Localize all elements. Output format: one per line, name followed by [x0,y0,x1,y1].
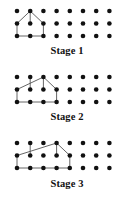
grid-dot [94,21,99,26]
grid-dot [94,34,99,39]
grid-dot [28,153,33,158]
grid-dot [81,9,86,14]
stage-3-label: Stage 3 [0,178,134,190]
stage-figure-2: Stage 2 [0,66,134,132]
grid-dot [68,9,73,14]
grid-dot [28,21,33,26]
grid-dot [81,34,86,39]
grid-dot [28,166,33,171]
grid-dot [81,21,86,26]
stage-figure-3: Stage 3 [0,132,134,198]
grid-dot [15,166,20,171]
grid-dot [41,166,46,171]
grid-dot [68,21,73,26]
grid-dot [54,166,59,171]
grid-dot [81,87,86,92]
grid-dot [15,34,20,39]
grid-dot [15,153,20,158]
grid-dot [41,9,46,14]
grid-dot [81,166,86,171]
grid-dot [41,21,46,26]
grid-dot [28,34,33,39]
grid-dot [68,34,73,39]
grid-dot [41,100,46,105]
grid-dot [68,166,73,171]
grid-dot [94,75,99,80]
grid-dot [107,87,112,92]
grid-dot [41,75,46,80]
grid-dot [68,100,73,105]
grid-dot [94,100,99,105]
grid-dot [107,75,112,80]
grid-dot [28,100,33,105]
grid-dot [94,9,99,14]
grid-dot [107,34,112,39]
grid-dot [41,141,46,146]
stage-figure-1: Stage 1 [0,0,134,66]
grid-dot [68,153,73,158]
grid-dot [81,75,86,80]
grid-dot [15,87,20,92]
grid-dot [54,9,59,14]
grid-dot [15,100,20,105]
grid-dot [15,141,20,146]
grid-dot [28,75,33,80]
grid-dot [94,153,99,158]
stage-2-label: Stage 2 [0,111,134,123]
grid-dot [68,87,73,92]
grid-dot [107,166,112,171]
grid-dot [107,153,112,158]
grid-dot [28,9,33,14]
grid-dot [28,87,33,92]
grid-dot [54,141,59,146]
grid-dot [54,21,59,26]
grid-dot [107,21,112,26]
grid-dot [15,21,20,26]
grid-dot [81,100,86,105]
stage-2-outline [17,77,57,102]
grid-dot [68,75,73,80]
grid-dot [107,141,112,146]
grid-dot [107,9,112,14]
grid-dot [81,141,86,146]
stage-1-label: Stage 1 [0,45,134,57]
grid-dot [54,87,59,92]
grid-dot [41,153,46,158]
grid-dot [94,166,99,171]
grid-dot [81,153,86,158]
grid-dot [68,141,73,146]
grid-dot [28,141,33,146]
grid-dot [94,87,99,92]
grid-dot [41,34,46,39]
grid-dot [54,100,59,105]
grid-dot [107,100,112,105]
grid-dot [54,75,59,80]
grid-dot [54,34,59,39]
grid-dot [94,141,99,146]
grid-dot [15,9,20,14]
grid-dot [41,87,46,92]
grid-dot [54,153,59,158]
grid-dot [15,75,20,80]
